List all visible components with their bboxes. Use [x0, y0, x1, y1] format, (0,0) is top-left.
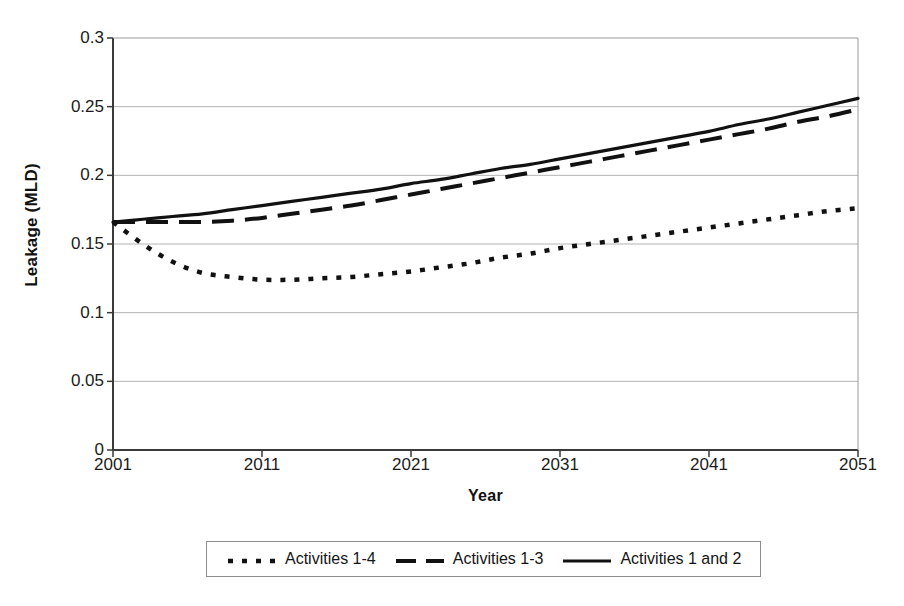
solid-line-swatch: [561, 553, 613, 565]
gridlines: [113, 107, 858, 382]
dotted-line-swatch: [226, 553, 278, 565]
x-tick-label: 2001: [73, 455, 153, 475]
legend-entry-2[interactable]: Activities 1-3: [394, 550, 544, 568]
legend-entry-3[interactable]: Activities 1 and 2: [561, 550, 741, 568]
x-tick-label: 2031: [520, 455, 600, 475]
x-axis-title: Year: [113, 487, 858, 505]
legend-entry-1[interactable]: Activities 1-4: [226, 550, 376, 568]
x-tick-label: 2021: [371, 455, 451, 475]
series-line-3: [113, 98, 858, 222]
legend-label: Activities 1-4: [285, 550, 376, 568]
x-tick-label: 2051: [818, 455, 898, 475]
legend-label: Activities 1-3: [453, 550, 544, 568]
x-tick-label: 2011: [222, 455, 302, 475]
chart-legend: Activities 1-4Activities 1-3Activities 1…: [206, 541, 761, 577]
data-series-group: [113, 98, 858, 280]
dashed-line-swatch: [394, 553, 446, 565]
x-axis-tick-labels: 200120112021203120412051: [0, 455, 904, 485]
x-tick-label: 2041: [669, 455, 749, 475]
leakage-projection-chart: Leakage (MLD) 00.050.10.150.20.250.3 200…: [0, 0, 904, 606]
series-line-2: [113, 109, 858, 222]
legend-label: Activities 1 and 2: [620, 550, 741, 568]
plot-area: [0, 0, 904, 606]
